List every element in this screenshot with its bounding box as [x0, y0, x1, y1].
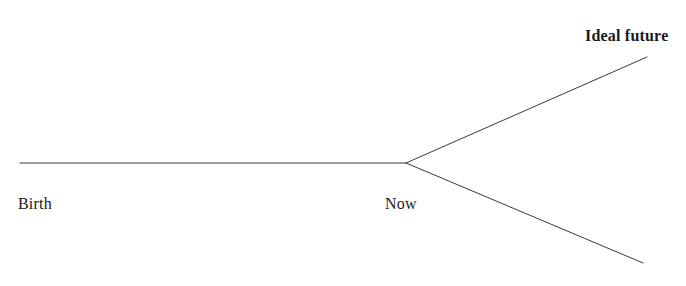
upper-branch-line	[406, 57, 647, 163]
label-ideal-future: Ideal future	[585, 28, 668, 44]
timeline-graphic	[0, 0, 686, 286]
diagram-canvas: Birth Now Ideal future	[0, 0, 686, 286]
label-now: Now	[385, 196, 417, 212]
lower-branch-line	[406, 163, 643, 263]
label-birth: Birth	[18, 196, 52, 212]
